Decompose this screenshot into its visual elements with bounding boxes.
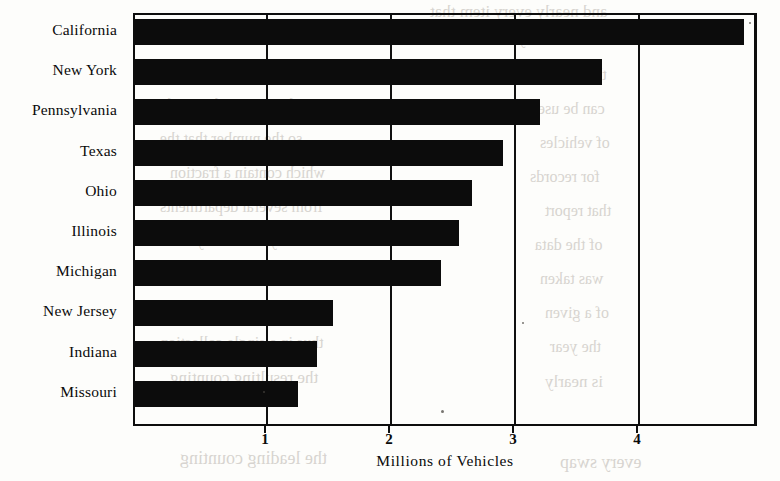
category-label: Pennsylvania bbox=[32, 102, 117, 118]
category-label: Indiana bbox=[69, 344, 117, 360]
category-label: New York bbox=[53, 62, 117, 78]
category-label: Missouri bbox=[60, 384, 117, 400]
bar bbox=[135, 220, 459, 246]
scan-speck bbox=[749, 22, 751, 24]
category-label: Ohio bbox=[85, 183, 117, 199]
x-tick-label: 2 bbox=[369, 431, 409, 448]
chart-plot-area: CaliforniaNew YorkPennsylvaniaTexasOhioI… bbox=[0, 0, 780, 481]
x-tick-label: 4 bbox=[617, 431, 657, 448]
category-label: Texas bbox=[80, 143, 117, 159]
category-label: Michigan bbox=[56, 263, 117, 279]
bar bbox=[135, 381, 298, 407]
gridline-4 bbox=[638, 15, 640, 424]
scan-speck bbox=[441, 410, 444, 413]
x-tick-label: 3 bbox=[493, 431, 533, 448]
bar-chart-figure: and nearly every item thatthe recording … bbox=[0, 0, 780, 481]
category-axis-labels: CaliforniaNew YorkPennsylvaniaTexasOhioI… bbox=[0, 0, 133, 440]
bar bbox=[135, 59, 602, 85]
category-label: Illinois bbox=[71, 223, 117, 239]
bar bbox=[135, 300, 333, 326]
bar bbox=[135, 341, 317, 367]
bar bbox=[135, 19, 744, 45]
category-label: California bbox=[52, 22, 117, 38]
category-label: New Jersey bbox=[43, 303, 117, 319]
plot-frame bbox=[133, 13, 757, 426]
bar bbox=[135, 260, 441, 286]
bar bbox=[135, 99, 540, 125]
scan-speck bbox=[263, 391, 265, 393]
bar bbox=[135, 180, 472, 206]
x-tick-label: 1 bbox=[245, 431, 285, 448]
x-axis-title: Millions of Vehicles bbox=[133, 452, 757, 470]
scan-speck bbox=[522, 322, 524, 324]
bar bbox=[135, 140, 503, 166]
